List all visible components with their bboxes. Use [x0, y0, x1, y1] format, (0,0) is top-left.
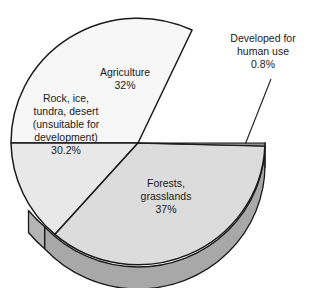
leader-line-developed — [246, 79, 272, 144]
leader-line-group — [246, 79, 272, 144]
pie-chart-graphic — [0, 0, 317, 288]
pie-top-face — [11, 18, 265, 265]
slice-agriculture[interactable] — [11, 18, 192, 143]
pie-chart: Agriculture 32% Rock, ice, tundra, deser… — [0, 0, 317, 288]
